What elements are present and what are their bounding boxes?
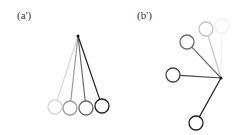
pendulum-bob: [189, 116, 203, 130]
pendulum-bob: [199, 22, 213, 36]
panel-a: [48, 35, 109, 116]
pendulum-bob: [48, 100, 62, 114]
pendulum-diagram: [0, 0, 242, 135]
pivot-point: [77, 35, 80, 38]
pendulum-bob: [79, 101, 93, 115]
pendulum-bob: [180, 35, 194, 49]
pendulum-bob: [63, 101, 77, 115]
pendulum-bob: [215, 19, 229, 33]
pendulum-rod: [221, 33, 222, 78]
pendulum-rod: [180, 75, 221, 78]
pivot-point: [220, 77, 223, 80]
pendulum-rod: [199, 78, 221, 117]
panel-b: [166, 19, 229, 130]
pendulum-bob: [166, 68, 180, 82]
pendulum-bob: [95, 99, 109, 113]
